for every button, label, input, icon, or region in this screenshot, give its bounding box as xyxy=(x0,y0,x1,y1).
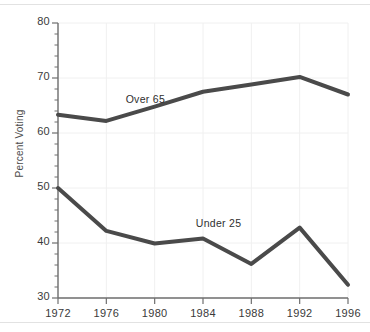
y-tick-label: 70 xyxy=(22,70,50,82)
series-label-over-65: Over 65 xyxy=(126,93,165,105)
y-tick-label: 80 xyxy=(22,15,50,27)
series-label-under-25: Under 25 xyxy=(196,217,242,229)
y-tick-label: 60 xyxy=(22,125,50,137)
x-tick-label: 1980 xyxy=(132,307,178,319)
x-tick-label: 1972 xyxy=(35,307,81,319)
axis-major-ticks xyxy=(52,23,348,304)
y-tick-label: 50 xyxy=(22,180,50,192)
chart-container: Percent Voting 807060504030 197219761980… xyxy=(0,0,370,332)
gridlines xyxy=(58,23,348,298)
y-tick-label: 40 xyxy=(22,235,50,247)
x-tick-label: 1984 xyxy=(180,307,226,319)
y-tick-label: 30 xyxy=(22,290,50,302)
line-chart-plot xyxy=(0,0,370,332)
x-tick-label: 1992 xyxy=(277,307,323,319)
x-tick-label: 1996 xyxy=(325,307,370,319)
x-tick-label: 1988 xyxy=(228,307,274,319)
x-tick-label: 1976 xyxy=(83,307,129,319)
